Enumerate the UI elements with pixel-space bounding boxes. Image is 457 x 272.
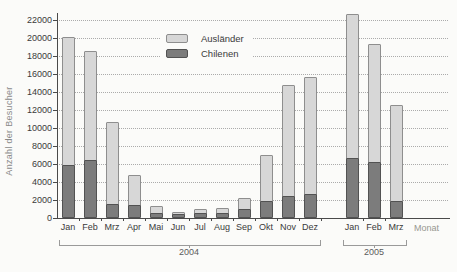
- bar-2004-Mrz: [106, 122, 119, 218]
- bar-2004-Aug: [216, 208, 229, 218]
- y-tick-label-8000: 8000: [18, 141, 52, 151]
- x-tick: [321, 218, 322, 221]
- x-tick: [385, 218, 386, 221]
- legend-swatch-chilenen: [166, 49, 188, 58]
- bar-2005-Feb: [368, 44, 381, 218]
- legend-swatch-auslaender: [166, 34, 188, 43]
- bar-2004-Okt: [260, 155, 273, 218]
- bar-segment-chilenen: [216, 213, 229, 218]
- y-tick-label-0: 0: [18, 213, 52, 223]
- y-tick-label-10000: 10000: [18, 123, 52, 133]
- bar-segment-chilenen: [172, 214, 185, 218]
- year-bracket-2005: [343, 240, 407, 246]
- x-axis-title: Monat: [414, 223, 457, 233]
- x-tick: [233, 218, 234, 221]
- y-tick-label-4000: 4000: [18, 177, 52, 187]
- x-tick: [79, 218, 80, 221]
- legend-label-auslaender: Ausländer: [201, 33, 244, 44]
- x-axis-line: [57, 218, 450, 219]
- month-label-2004-Dez: Dez: [297, 222, 323, 232]
- bar-2004-Apr: [128, 175, 141, 218]
- year-bracket-2004: [59, 240, 321, 246]
- bar-segment-chilenen: [84, 160, 97, 218]
- x-tick: [123, 218, 124, 221]
- bar-segment-chilenen: [106, 204, 119, 218]
- bar-segment-chilenen: [194, 213, 207, 218]
- y-tick-label-14000: 14000: [18, 87, 52, 97]
- legend-label-chilenen: Chilenen: [201, 48, 239, 59]
- y-axis-title: Anzahl der Besucher: [4, 61, 16, 201]
- y-tick-label-22000: 22000: [18, 15, 52, 25]
- bar-segment-chilenen: [150, 213, 163, 218]
- y-tick-label-16000: 16000: [18, 69, 52, 79]
- year-label-2004: 2004: [169, 247, 209, 257]
- bar-2004-Sep: [238, 198, 251, 218]
- y-tick-label-12000: 12000: [18, 105, 52, 115]
- month-label-2005-Mrz: Mrz: [383, 222, 409, 232]
- bar-2004-Mai: [150, 206, 163, 218]
- x-tick: [363, 218, 364, 221]
- y-axis-line: [57, 13, 58, 218]
- bar-2005-Mrz: [390, 105, 403, 218]
- bar-2005-Jan: [346, 14, 359, 218]
- bar-segment-chilenen: [260, 201, 273, 218]
- bar-segment-chilenen: [346, 158, 359, 218]
- x-tick: [145, 218, 146, 221]
- bar-segment-chilenen: [282, 196, 295, 218]
- gridline-20000: [57, 38, 448, 39]
- gridline-18000: [57, 56, 448, 57]
- y-tick-label-18000: 18000: [18, 51, 52, 61]
- gridline-14000: [57, 92, 448, 93]
- x-tick: [189, 218, 190, 221]
- gridline-16000: [57, 74, 448, 75]
- bar-2004-Feb: [84, 51, 97, 218]
- bar-segment-chilenen: [304, 194, 317, 218]
- bar-segment-chilenen: [128, 205, 141, 218]
- bar-2004-Dez: [304, 77, 317, 218]
- y-tick-label-6000: 6000: [18, 159, 52, 169]
- x-tick: [167, 218, 168, 221]
- legend: Ausländer Chilenen: [160, 28, 252, 64]
- bar-2004-Jul: [194, 209, 207, 218]
- bar-segment-chilenen: [390, 201, 403, 218]
- gridline-22000: [57, 20, 448, 21]
- legend-entry-auslaender: Ausländer: [166, 32, 244, 45]
- bar-2004-Jun: [172, 212, 185, 218]
- x-tick: [299, 218, 300, 221]
- bar-segment-chilenen: [62, 165, 75, 218]
- chart-canvas: Anzahl der Besucher 02000400060008000100…: [0, 0, 457, 272]
- x-tick: [277, 218, 278, 221]
- y-tick-label-20000: 20000: [18, 33, 52, 43]
- bar-2004-Nov: [282, 85, 295, 218]
- x-tick: [101, 218, 102, 221]
- bar-2004-Jan: [62, 37, 75, 218]
- bar-segment-chilenen: [238, 209, 251, 218]
- year-label-2005: 2005: [354, 247, 394, 257]
- x-tick: [255, 218, 256, 221]
- x-tick: [211, 218, 212, 221]
- legend-entry-chilenen: Chilenen: [166, 47, 244, 60]
- bar-segment-chilenen: [368, 162, 381, 218]
- y-tick-label-2000: 2000: [18, 195, 52, 205]
